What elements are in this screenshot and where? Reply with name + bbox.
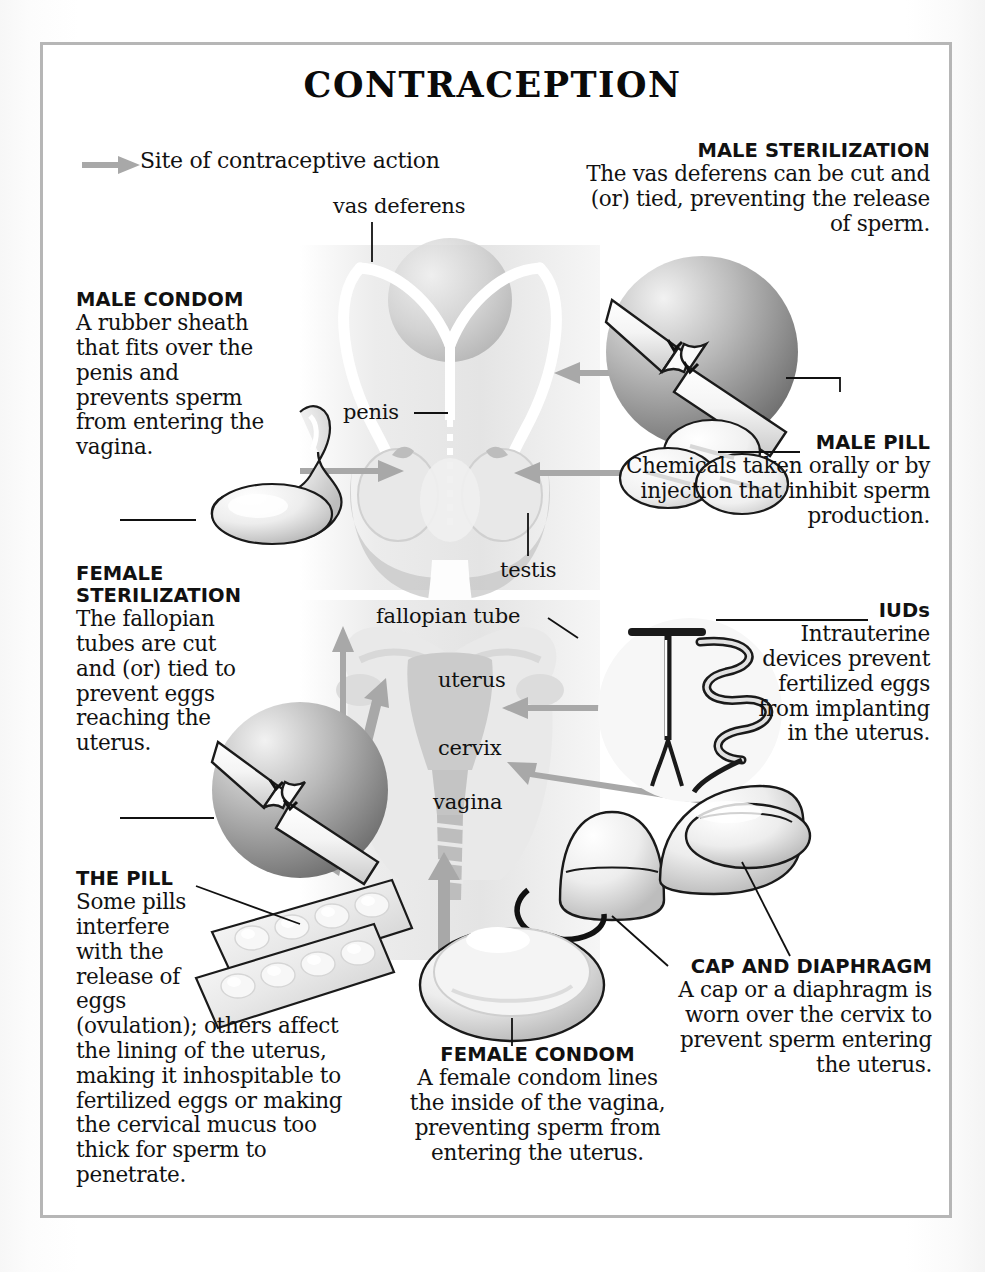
- body-iuds: Intrauterine devices prevent fertilized …: [740, 622, 930, 746]
- method-iuds: IUDs Intrauterine devices prevent fertil…: [740, 600, 930, 746]
- heading-male-sterilization: MALE STERILIZATION: [580, 140, 930, 162]
- body-the-pill-narrow: Some pills interfere with the release of…: [76, 890, 196, 1014]
- label-vagina: vagina: [433, 790, 502, 814]
- body-female-condom: A female condom lines the inside of the …: [405, 1066, 670, 1165]
- leader-diaphragm: [742, 862, 790, 956]
- method-the-pill: THE PILL Some pills interfere with the r…: [76, 868, 376, 1188]
- heading-iuds: IUDs: [740, 600, 930, 622]
- label-cervix: cervix: [438, 736, 501, 760]
- leader-male-sterilization: [786, 378, 840, 392]
- label-penis: penis: [343, 400, 399, 424]
- method-cap-and-diaphragm: CAP AND DIAPHRAGM A cap or a diaphragm i…: [660, 956, 932, 1077]
- body-male-condom: A rubber sheath that fits over the penis…: [76, 311, 266, 460]
- leader-fallopian-tube: [548, 618, 578, 638]
- body-female-sterilization: The fallopian tubes are cut and (or) tie…: [76, 607, 248, 756]
- method-male-pill: MALE PILL Chemicals taken orally or by i…: [620, 432, 930, 529]
- diagram-page: CONTRACEPTION Site of contraceptive acti…: [0, 0, 985, 1272]
- heading-male-condom: MALE CONDOM: [76, 289, 266, 311]
- body-male-sterilization: The vas deferens can be cut and (or) tie…: [580, 162, 930, 236]
- body-cap-and-diaphragm: A cap or a diaphragm is worn over the ce…: [660, 978, 932, 1077]
- method-female-condom: FEMALE CONDOM A female condom lines the …: [405, 1044, 670, 1165]
- label-vas-deferens: vas deferens: [333, 194, 465, 218]
- method-female-sterilization: FEMALE STERILIZATION The fallopian tubes…: [76, 563, 248, 756]
- method-male-sterilization: MALE STERILIZATION The vas deferens can …: [580, 140, 930, 237]
- label-fallopian-tube: fallopian tube: [376, 604, 520, 628]
- heading-the-pill: THE PILL: [76, 868, 376, 890]
- heading-cap-and-diaphragm: CAP AND DIAPHRAGM: [660, 956, 932, 978]
- label-testis: testis: [500, 558, 556, 582]
- heading-female-condom: FEMALE CONDOM: [405, 1044, 670, 1066]
- method-male-condom: MALE CONDOM A rubber sheath that fits ov…: [76, 289, 266, 460]
- heading-male-pill: MALE PILL: [620, 432, 930, 454]
- heading-female-sterilization: FEMALE STERILIZATION: [76, 563, 248, 607]
- body-male-pill: Chemicals taken orally or by injection t…: [620, 454, 930, 528]
- label-uterus: uterus: [438, 668, 506, 692]
- body-the-pill-wide: (ovulation); others affect the lining of…: [76, 1014, 376, 1188]
